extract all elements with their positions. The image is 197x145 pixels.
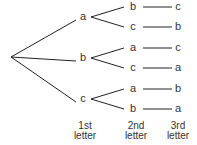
level3-node: b [175,83,181,94]
level3-node: a [175,103,181,114]
level2-node: c [130,62,136,73]
tree-edge [11,57,76,102]
level2-node: c [130,21,136,32]
tree-diagram: a b c b c a c a b c b c a b a 1st letter… [0,0,197,145]
tree-edge [91,48,124,58]
tree-edge [91,58,124,68]
level3-node: c [175,42,181,53]
level1-node-a: a [80,11,86,22]
tree-edge [11,20,76,57]
tree-edge [91,99,124,109]
level3-node: b [175,21,181,32]
level1-node-c: c [80,93,86,104]
tree-edge [11,57,76,61]
column-label-line2: letter [74,131,96,141]
tree-edge [91,89,124,99]
level2-node: a [130,83,136,94]
tree-edge [91,17,124,27]
level3-node: c [175,1,181,12]
column-label-3rd: 3rd letter [167,121,189,141]
level3-node: a [175,62,181,73]
level2-node: b [130,103,136,114]
tree-edge [91,7,124,17]
level2-node: b [130,1,136,12]
column-label-line2: letter [167,131,189,141]
column-label-1st: 1st letter [74,121,96,141]
level2-node: a [130,42,136,53]
level1-node-b: b [80,52,86,63]
column-label-2nd: 2nd letter [125,121,147,141]
column-label-line2: letter [125,131,147,141]
